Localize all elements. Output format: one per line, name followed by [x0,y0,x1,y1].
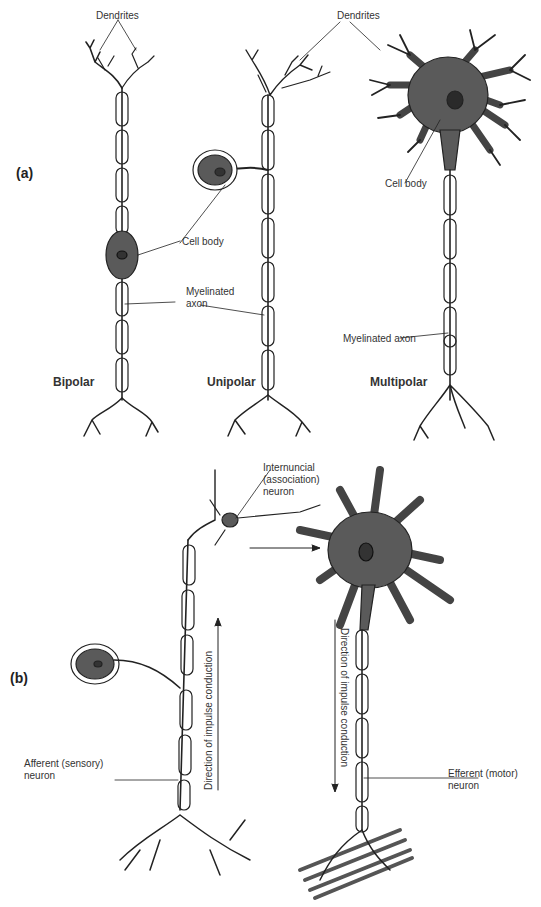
cell-body-label-multipolar: Cell body [385,178,427,190]
neuron-type-multipolar: Multipolar [370,375,427,389]
neuron-type-bipolar: Bipolar [53,375,94,389]
myelinated-axon-label-line2: axon [186,298,208,310]
panel-a-label: (a) [16,165,33,181]
direction-label-downward: Direction of impulse conduction [339,628,350,767]
myelinated-axon-label-multipolar: Myelinated axon [343,333,416,345]
dendrites-label-left: Dendrites [96,10,139,22]
internuncial-label-line3: neuron [263,486,294,498]
internuncial-label-line1: Internuncial [263,462,315,474]
internuncial-neuron [210,500,320,545]
afferent-label-line2: neuron [24,770,55,782]
panel-b-label: (b) [10,670,28,686]
efferent-neuron [300,470,450,898]
cell-body-label-bipolar: Cell body [182,236,224,248]
neuron-type-unipolar: Unipolar [207,375,256,389]
afferent-neuron [71,470,250,875]
direction-label-upward: Direction of impulse conduction [203,651,214,790]
afferent-label-line1: Afferent (sensory) [24,758,103,770]
efferent-label-line2: neuron [448,780,479,792]
internuncial-label-line2: (association) [263,474,320,486]
efferent-label-line1: Efferent (motor) [448,768,518,780]
myelinated-axon-label-line1: Myelinated [186,286,234,298]
dendrites-label-right: Dendrites [337,10,380,22]
bipolar-neuron [84,40,158,436]
